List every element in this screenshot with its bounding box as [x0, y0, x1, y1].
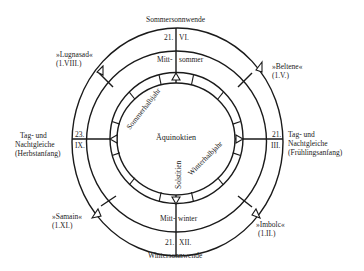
arrow-summer-icon	[172, 73, 180, 80]
summer-solstice-month: VI.	[179, 33, 189, 42]
spring-equinox-line2: Nachtgleiche	[288, 139, 328, 148]
samain-name: »Samain«	[52, 212, 82, 221]
autumn-equinox-line3: (Herbstanfang)	[15, 149, 60, 158]
autumn-equinox-line2: Nachtgleiche	[15, 140, 55, 149]
lugnasad-date: (1.VIII.)	[56, 59, 81, 68]
imbolc-name: »Imbolc«	[256, 220, 285, 229]
midwinter-right: winter	[178, 214, 197, 223]
solstices-label: Solstitien	[174, 160, 183, 189]
midsummer-left: Mitt-	[157, 55, 172, 64]
autumn-equinox-line1: Tag- und	[20, 131, 47, 140]
midwinter-left: Mitt-	[160, 214, 175, 223]
arrow-spring-icon	[236, 135, 243, 143]
summer-solstice-title: Sommersonnwende	[146, 15, 205, 24]
winter-solstice-day: 21.	[165, 238, 174, 247]
beltene-name: »Beltene«	[272, 62, 302, 71]
autumn-equinox-day: 23.	[75, 130, 84, 139]
spring-equinox-line1: Tag- und	[288, 130, 315, 139]
arrow-autumn-icon	[110, 135, 117, 143]
equinoxes-label: Äquinoktien	[156, 133, 196, 142]
autumn-equinox-month: IX.	[75, 141, 85, 150]
winter-solstice-month: XII.	[179, 238, 191, 247]
summer-solstice-day: 21.	[164, 33, 173, 42]
lugnasad-name: »Lugnasad«	[56, 50, 93, 59]
beltene-date: (1.V.)	[272, 71, 289, 80]
spring-equinox-line3: (Frühlingsanfang)	[288, 148, 342, 157]
samain-date: (1.XI.)	[52, 221, 72, 230]
winter-solstice-title: Wintersonnwende	[148, 251, 202, 260]
arrow-imbolc-icon	[252, 209, 260, 218]
imbolc-date: (1.II.)	[258, 229, 276, 238]
spring-equinox-day: 21.	[272, 130, 281, 139]
winter-half-label: Winterhalbjahr	[186, 139, 225, 178]
midsummer-right: sommer	[179, 55, 203, 64]
spring-equinox-month: III.	[271, 141, 280, 150]
